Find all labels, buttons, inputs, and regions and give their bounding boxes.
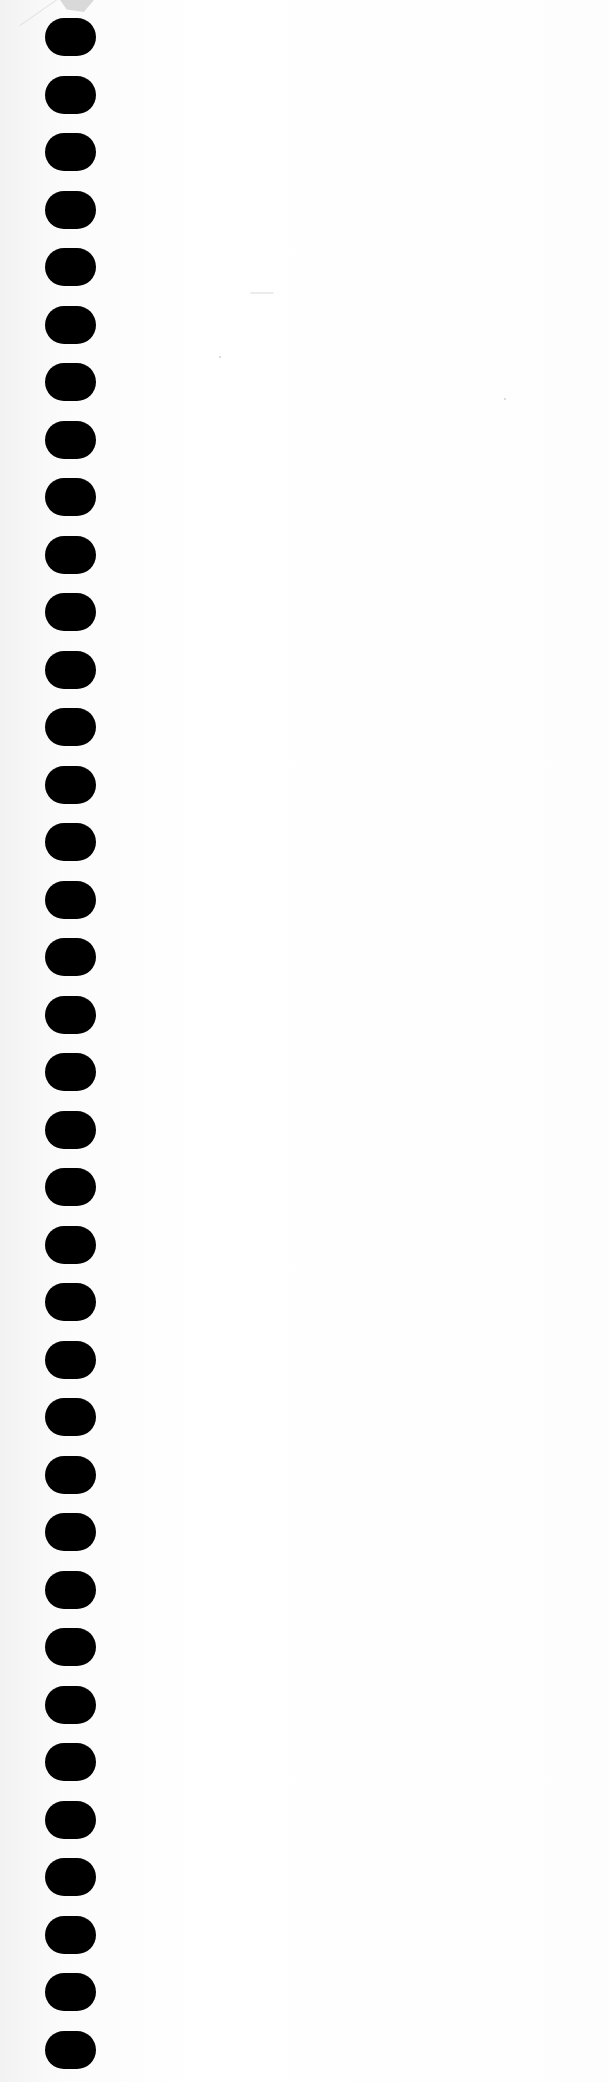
binding-hole <box>45 536 96 574</box>
binding-hole <box>45 1053 96 1091</box>
binding-hole <box>45 1686 96 1724</box>
binding-hole <box>45 1973 96 2011</box>
binding-hole <box>45 823 96 861</box>
binding-hole <box>45 766 96 804</box>
binding-hole <box>45 18 96 56</box>
binding-hole <box>45 1456 96 1494</box>
binding-hole <box>45 191 96 229</box>
paper-speck <box>504 398 506 400</box>
binding-hole <box>45 708 96 746</box>
binding-hole <box>45 1283 96 1321</box>
binding-hole <box>45 1111 96 1149</box>
paper-speck <box>219 356 221 358</box>
binding-hole <box>45 2031 96 2069</box>
binding-hole <box>45 306 96 344</box>
binding-hole <box>45 1398 96 1436</box>
binding-hole <box>45 1571 96 1609</box>
binding-hole <box>45 881 96 919</box>
binding-hole <box>45 133 96 171</box>
binding-hole <box>45 1341 96 1379</box>
blank-page <box>0 0 609 2082</box>
binding-hole <box>45 363 96 401</box>
binding-hole <box>45 76 96 114</box>
binding-hole <box>45 1743 96 1781</box>
binding-hole <box>45 248 96 286</box>
binding-hole <box>45 1628 96 1666</box>
binding-hole <box>45 1513 96 1551</box>
binding-hole <box>45 1801 96 1839</box>
binding-hole <box>45 938 96 976</box>
binding-hole <box>45 1858 96 1896</box>
binding-hole <box>45 1916 96 1954</box>
binding-hole <box>45 651 96 689</box>
binding-hole <box>45 1168 96 1206</box>
binding-hole <box>45 478 96 516</box>
binding-hole <box>45 996 96 1034</box>
binding-hole <box>45 421 96 459</box>
spiral-binding-holes <box>0 0 110 2082</box>
binding-hole <box>45 1226 96 1264</box>
paper-smudge <box>250 292 274 294</box>
binding-hole <box>45 593 96 631</box>
